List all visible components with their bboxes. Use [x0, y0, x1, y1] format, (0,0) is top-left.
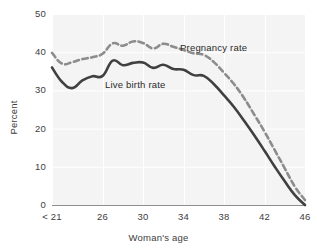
x-axis-tick-label: 38	[204, 211, 244, 222]
plot-background	[52, 14, 305, 205]
x-axis-tick-label: 46	[285, 211, 317, 222]
y-axis-tick-label: 50	[0, 8, 46, 19]
y-axis-tick-label: 10	[0, 161, 46, 172]
y-axis-title: Percent	[8, 88, 19, 148]
y-axis-tick-label: 40	[0, 46, 46, 57]
x-axis-tick-label: 42	[245, 211, 285, 222]
series-annotation-pregnancy-rate: Pregnancy rate	[180, 42, 247, 53]
series-annotation-live-birth-rate: Live birth rate	[105, 79, 166, 90]
y-axis-tick-label: 0	[0, 199, 46, 210]
x-axis-title: Woman's age	[0, 232, 317, 243]
line-chart: 50403020100 < 21263034384246 Percent Wom…	[0, 0, 317, 250]
x-axis-tick-label: 26	[83, 211, 123, 222]
x-axis-tick-label: < 21	[32, 211, 72, 222]
x-axis-tick-label: 34	[164, 211, 204, 222]
x-axis-tick-label: 30	[123, 211, 163, 222]
